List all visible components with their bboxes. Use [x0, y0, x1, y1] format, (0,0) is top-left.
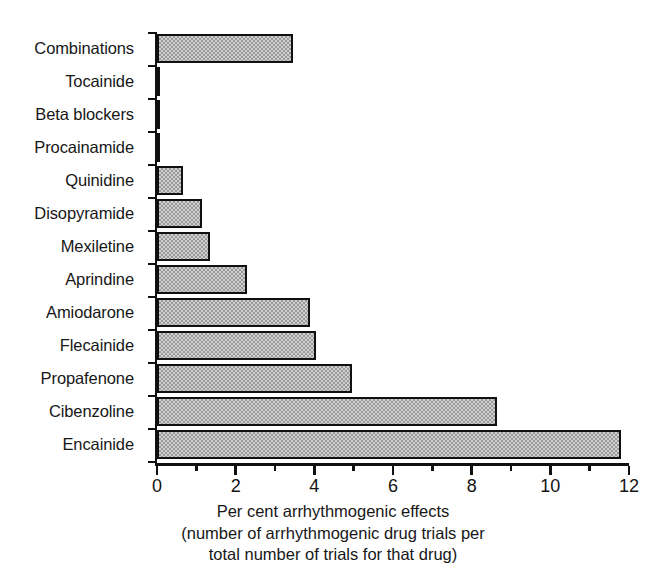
bar	[157, 298, 310, 327]
caption-line-1: Per cent arrhythmogenic effects	[0, 501, 666, 523]
bar-row	[157, 298, 629, 331]
y-axis-tick	[148, 263, 155, 265]
y-axis-tick	[148, 329, 155, 331]
category-label: Cibenzoline	[0, 397, 143, 430]
category-label: Combinations	[0, 34, 143, 67]
bar-row	[157, 397, 629, 430]
bar-row	[157, 430, 629, 463]
bar	[157, 34, 293, 63]
y-axis-tick	[148, 395, 155, 397]
bar-row	[157, 67, 629, 100]
y-axis-tick	[148, 296, 155, 298]
y-axis-tick	[148, 98, 155, 100]
category-label: Procainamide	[0, 133, 143, 166]
y-axis-tick	[148, 428, 155, 430]
category-label: Mexiletine	[0, 232, 143, 265]
bar	[157, 265, 247, 294]
bar-row	[157, 133, 629, 166]
y-axis-tick	[148, 164, 155, 166]
y-axis-tick	[148, 197, 155, 199]
x-axis-tick-label: 12	[619, 476, 639, 497]
axis-caption: Per cent arrhythmogenic effects (number …	[0, 501, 666, 565]
category-label: Amiodarone	[0, 298, 143, 331]
category-label: Quinidine	[0, 166, 143, 199]
bar-row	[157, 331, 629, 364]
bar	[157, 364, 352, 393]
bar-row	[157, 100, 629, 133]
bar	[157, 397, 497, 426]
x-axis-minor-tick	[195, 466, 197, 471]
x-axis-tick-label: 4	[309, 476, 319, 497]
category-label: Beta blockers	[0, 100, 143, 133]
bar	[157, 232, 210, 261]
category-label: Aprindine	[0, 265, 143, 298]
x-axis-minor-tick	[352, 466, 354, 471]
x-axis-minor-tick	[510, 466, 512, 471]
bar-row	[157, 166, 629, 199]
x-axis-minor-tick	[274, 466, 276, 471]
bar	[157, 430, 621, 459]
x-axis-tick-label: 10	[540, 476, 560, 497]
x-axis-tick-label: 6	[388, 476, 398, 497]
x-axis-tick-label: 2	[231, 476, 241, 497]
category-label: Tocainide	[0, 67, 143, 100]
x-axis-major-tick	[234, 466, 236, 475]
x-axis-major-tick	[628, 466, 630, 475]
y-axis-tick	[148, 230, 155, 232]
category-label: Disopyramide	[0, 199, 143, 232]
x-axis-major-tick	[470, 466, 472, 475]
bar-row	[157, 364, 629, 397]
bar	[157, 67, 160, 96]
x-axis-tick-label: 0	[152, 476, 162, 497]
x-axis-tick-label: 8	[467, 476, 477, 497]
category-label: Propafenone	[0, 364, 143, 397]
category-label: Encainide	[0, 430, 143, 463]
x-axis-major-tick	[549, 466, 551, 475]
plot-area	[157, 34, 629, 463]
x-axis-major-tick	[392, 466, 394, 475]
bar-row	[157, 232, 629, 265]
x-axis-major-tick	[313, 466, 315, 475]
bar	[157, 100, 160, 129]
x-axis-minor-tick	[588, 466, 590, 471]
y-axis-tick	[148, 131, 155, 133]
x-axis-major-tick	[156, 466, 158, 475]
bar	[157, 331, 316, 360]
bar-row	[157, 34, 629, 67]
bar-row	[157, 265, 629, 298]
x-axis-minor-tick	[431, 466, 433, 471]
bar-row	[157, 199, 629, 232]
category-axis-labels: CombinationsTocainideBeta blockersProcai…	[0, 34, 143, 463]
bar	[157, 166, 183, 195]
y-axis-tick	[148, 362, 155, 364]
caption-line-3: total number of trials for that drug)	[0, 544, 666, 565]
bar-chart-figure: CombinationsTocainideBeta blockersProcai…	[0, 0, 666, 565]
bar	[157, 199, 202, 228]
y-axis-tick	[148, 461, 155, 463]
y-axis-tick	[148, 32, 155, 34]
category-label: Flecainide	[0, 331, 143, 364]
y-axis-tick	[148, 65, 155, 67]
caption-line-2: (number of arrhythmogenic drug trials pe…	[0, 523, 666, 545]
bar	[157, 133, 160, 162]
